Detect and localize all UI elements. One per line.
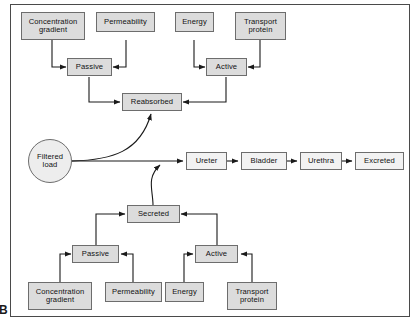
node-permeability-secretion[interactable]: Permeability: [105, 282, 162, 302]
edge-perm-to-passive-top: [113, 40, 126, 67]
node-label: Active: [214, 63, 239, 71]
node-label: Transportprotein: [240, 18, 281, 34]
node-label: Reabsorbed: [129, 98, 175, 106]
node-label: Filteredload: [33, 153, 67, 169]
node-label: Urethra: [306, 157, 336, 165]
node-label: Passive: [74, 63, 105, 71]
edge-transport-to-active-bottom: [241, 254, 252, 282]
edge-filtered-to-reabsorbed: [72, 114, 151, 161]
node-label: Energy: [180, 18, 209, 26]
node-label-line2: gradient: [34, 296, 87, 304]
node-label: Active: [204, 250, 229, 258]
node-urethra[interactable]: Urethra: [300, 152, 342, 170]
node-secreted[interactable]: Secreted: [127, 205, 180, 223]
edge-energy-to-active-top: [194, 40, 205, 67]
edge-secreted-to-flow: [151, 165, 160, 205]
edge-active-to-reabsorbed: [183, 77, 226, 102]
node-label-line2: protein: [233, 296, 270, 304]
figure-canvas: Concentrationgradient Permeability Energ…: [0, 0, 414, 326]
node-bladder[interactable]: Bladder: [241, 152, 287, 170]
node-label: Ureter: [194, 157, 220, 165]
node-passive-reabsorption[interactable]: Passive: [67, 58, 112, 76]
edge-conc-to-passive-top: [52, 40, 66, 67]
node-label: Excreted: [362, 157, 397, 165]
node-label: Transportprotein: [231, 288, 272, 304]
node-label: Bladder: [249, 157, 280, 165]
node-active-reabsorption[interactable]: Active: [206, 58, 247, 76]
node-label: Concentrationgradient: [32, 288, 89, 304]
edge-passive-to-reabsorbed: [89, 77, 120, 102]
node-ureter[interactable]: Ureter: [186, 152, 227, 170]
edge-energy-to-active-bottom: [184, 254, 193, 282]
node-label: Concentrationgradient: [25, 18, 82, 34]
node-active-secretion[interactable]: Active: [195, 245, 238, 263]
edge-conc-to-passive-bottom: [60, 254, 71, 282]
panel-label: B: [0, 303, 8, 317]
node-label: Passive: [80, 250, 111, 258]
node-transport-protein-secretion[interactable]: Transportprotein: [227, 282, 277, 310]
node-label: Secreted: [136, 210, 171, 218]
node-concentration-gradient-reabsorption[interactable]: Concentrationgradient: [21, 12, 85, 40]
node-label: Energy: [170, 288, 199, 296]
node-reabsorbed[interactable]: Reabsorbed: [122, 93, 182, 111]
node-transport-protein-reabsorption[interactable]: Transportprotein: [235, 12, 286, 40]
edge-transport-to-active-top: [248, 40, 260, 67]
edge-perm-to-passive-bottom: [121, 254, 133, 282]
edge-active-to-secreted: [181, 214, 217, 245]
node-filtered-load[interactable]: Filteredload: [28, 139, 72, 183]
node-label-line2: gradient: [27, 26, 80, 34]
node-label-line2: protein: [242, 26, 279, 34]
edge-passive-to-secreted: [96, 214, 125, 245]
node-label: Permeability: [102, 18, 149, 26]
node-label: Permeability: [110, 288, 157, 296]
node-permeability-reabsorption[interactable]: Permeability: [96, 12, 155, 32]
node-concentration-gradient-secretion[interactable]: Concentrationgradient: [28, 282, 92, 310]
node-excreted[interactable]: Excreted: [355, 152, 404, 170]
node-energy-reabsorption[interactable]: Energy: [175, 12, 214, 32]
node-label-line2: load: [35, 161, 65, 169]
node-passive-secretion[interactable]: Passive: [72, 245, 119, 263]
node-energy-secretion[interactable]: Energy: [165, 282, 204, 302]
